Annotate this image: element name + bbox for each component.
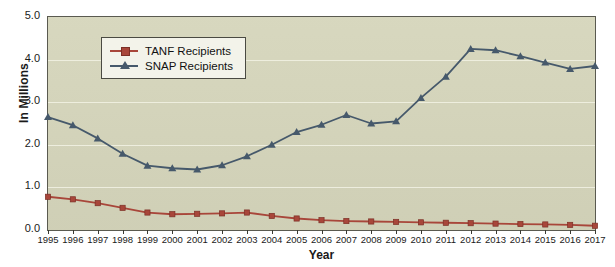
data-point-marker	[95, 201, 100, 206]
y-axis-tick: 5.0	[2, 9, 40, 21]
x-axis-tick: 2003	[236, 234, 257, 245]
x-axis-tick: 2009	[386, 234, 407, 245]
x-axis-tick: 2012	[460, 234, 481, 245]
y-axis-tick: 4.0	[2, 52, 40, 64]
x-axis-tick: 1998	[112, 234, 133, 245]
legend-item: SNAP Recipients	[109, 58, 233, 73]
x-axis-tick: 2006	[311, 234, 332, 245]
y-axis-title: In Millions	[17, 53, 31, 133]
data-point-marker	[342, 111, 350, 118]
x-axis-tick: 1999	[137, 234, 158, 245]
x-axis-tickmark	[222, 230, 223, 234]
x-axis-tick: 2008	[361, 234, 382, 245]
x-axis-tickmark	[197, 230, 198, 234]
legend-swatch-snap	[109, 59, 139, 72]
data-point-marker	[70, 197, 75, 202]
x-axis-tick: 2015	[535, 234, 556, 245]
x-axis-tickmark	[272, 230, 273, 234]
data-point-marker	[443, 220, 448, 225]
x-axis-tick: 1996	[62, 234, 83, 245]
data-point-marker	[170, 212, 175, 217]
x-axis-tickmark	[346, 230, 347, 234]
x-axis-tick: 2010	[410, 234, 431, 245]
x-axis-tick: 2014	[510, 234, 531, 245]
x-axis-tick: 2011	[436, 234, 456, 245]
x-axis-tick: 1995	[37, 234, 58, 245]
data-point-marker	[369, 219, 374, 224]
x-axis-tick: 2016	[560, 234, 581, 245]
x-axis-tickmark	[48, 230, 49, 234]
data-point-marker	[45, 194, 50, 199]
legend-label-tanf: TANF Recipients	[145, 45, 231, 57]
data-point-marker	[393, 219, 398, 224]
x-axis-tickmark	[446, 230, 447, 234]
x-axis-tickmark	[297, 230, 298, 234]
x-axis-tickmark	[172, 230, 173, 234]
x-axis-tick-labels: 1995199619971998199920002001200220032004…	[47, 233, 596, 247]
plot-area: TANF Recipients SNAP Recipients	[47, 16, 596, 231]
data-point-marker	[543, 222, 548, 227]
data-point-marker	[244, 210, 249, 215]
x-axis-tickmark	[371, 230, 372, 234]
x-axis-tickmark	[496, 230, 497, 234]
y-axis-tick: 2.0	[2, 137, 40, 149]
x-axis-tickmark	[322, 230, 323, 234]
x-axis-tickmark	[520, 230, 521, 234]
legend-label-snap: SNAP Recipients	[145, 60, 233, 72]
data-point-marker	[493, 221, 498, 226]
x-axis-tickmark	[396, 230, 397, 234]
y-axis-tick: 3.0	[2, 94, 40, 106]
data-point-marker	[592, 223, 597, 228]
x-axis-tick: 2002	[211, 234, 232, 245]
x-axis-tick: 2004	[261, 234, 282, 245]
x-axis-tick: 2013	[485, 234, 506, 245]
x-axis-tickmark	[247, 230, 248, 234]
x-axis-tickmark	[123, 230, 124, 234]
x-axis-title: Year	[47, 248, 596, 262]
legend-item: TANF Recipients	[109, 43, 233, 58]
data-point-marker	[344, 218, 349, 223]
x-axis-tickmark	[147, 230, 148, 234]
x-axis-tick: 1997	[87, 234, 108, 245]
x-axis-tickmark	[595, 230, 596, 234]
x-axis-tickmark	[570, 230, 571, 234]
x-axis-tickmark	[545, 230, 546, 234]
y-axis-tick: 1.0	[2, 179, 40, 191]
data-point-marker	[468, 221, 473, 226]
data-point-marker	[269, 213, 274, 218]
data-point-marker	[195, 211, 200, 216]
x-axis-tick: 2005	[286, 234, 307, 245]
x-axis-tick: 2001	[187, 234, 208, 245]
x-axis-tickmark	[421, 230, 422, 234]
data-point-marker	[44, 113, 52, 120]
data-point-marker	[319, 218, 324, 223]
x-axis-tick: 2017	[584, 234, 605, 245]
data-point-marker	[145, 210, 150, 215]
y-axis-tick: 0.0	[2, 222, 40, 234]
data-point-marker	[120, 205, 125, 210]
data-point-marker	[518, 221, 523, 226]
data-point-marker	[568, 222, 573, 227]
data-point-marker	[294, 216, 299, 221]
legend-swatch-tanf	[109, 44, 139, 57]
x-axis-tickmark	[98, 230, 99, 234]
data-point-marker	[119, 150, 127, 157]
legend: TANF Recipients SNAP Recipients	[101, 37, 246, 79]
x-axis-tick: 2000	[162, 234, 183, 245]
chart-figure: In Millions 5.04.03.02.01.00.0 TANF Reci…	[0, 0, 615, 267]
data-point-marker	[418, 220, 423, 225]
data-point-marker	[219, 211, 224, 216]
x-axis-tickmark	[73, 230, 74, 234]
x-axis-tickmark	[471, 230, 472, 234]
x-axis-tick: 2007	[336, 234, 357, 245]
